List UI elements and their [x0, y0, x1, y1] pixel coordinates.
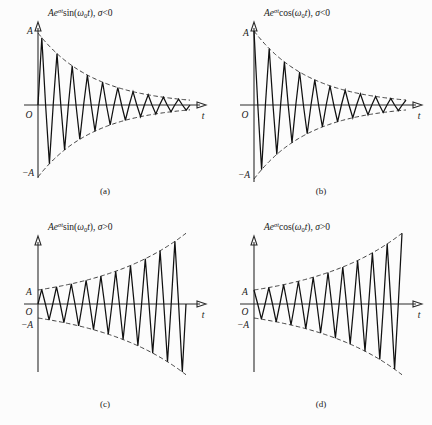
envelope-lower [38, 318, 186, 375]
panel-a: Aeσtsin(ω0t), σ<0 A O −A t [0, 0, 216, 212]
x-axis-label: t [418, 111, 421, 121]
x-axis-label: t [418, 310, 421, 320]
waveform [38, 38, 190, 164]
x-axis-label: t [202, 111, 205, 121]
panel-c-svg: Aeσtsin(ω0t), σ>0 A O −A t [0, 212, 216, 425]
panel-d-equation: Aeσtcos(ω0t), σ>0 [263, 221, 330, 233]
tick-label-b-top: A [242, 28, 249, 38]
envelope-lower [254, 318, 402, 375]
panel-d-axes [240, 236, 422, 372]
panel-c: Aeσtsin(ω0t), σ>0 A O −A t [0, 212, 216, 425]
tick-label-d-top: A [241, 287, 248, 297]
origin-label: O [242, 110, 249, 120]
tick-label-b-bottom: −A [238, 170, 250, 180]
origin-label: O [26, 307, 33, 317]
tick-label-c-top: A [25, 287, 32, 297]
caption-c: (c) [75, 399, 135, 409]
panel-d: Aeσtcos(ω0t), σ>0 A O −A t [216, 212, 432, 425]
origin-label: O [242, 307, 249, 317]
caption-a: (a) [75, 186, 135, 196]
tick-label-c-bottom: −A [21, 320, 33, 330]
x-axis-label: t [202, 310, 205, 320]
caption-d: (d) [291, 399, 351, 409]
tick-label-a-top: A [26, 26, 33, 36]
envelope-lower [38, 110, 190, 177]
panel-b-svg: Aeσtcos(ω0t), σ<0 A O −A t [216, 0, 432, 212]
panel-b: Aeσtcos(ω0t), σ<0 A O −A t [216, 0, 432, 212]
tick-label-a-bottom: −A [22, 168, 34, 178]
envelope-upper [254, 233, 402, 290]
panel-d-svg: Aeσtcos(ω0t), σ>0 A O −A t [216, 212, 432, 425]
envelope-upper [38, 33, 190, 100]
waveform [38, 241, 186, 372]
panel-c-equation: Aeσtsin(ω0t), σ>0 [47, 221, 113, 233]
panel-a-equation: Aeσtsin(ω0t), σ<0 [47, 7, 113, 19]
waveform [254, 31, 406, 170]
caption-b: (b) [291, 186, 351, 196]
panel-b-equation: Aeσtcos(ω0t), σ<0 [263, 7, 330, 19]
figure-container: Aeσtsin(ω0t), σ<0 A O −A t Aeσtcos(ω0t),… [0, 0, 432, 425]
panel-b-axes [240, 22, 422, 182]
envelope-upper [38, 233, 186, 290]
envelope-lower [254, 110, 406, 179]
panel-a-svg: Aeσtsin(ω0t), σ<0 A O −A t [0, 0, 216, 212]
waveform [254, 233, 402, 369]
tick-label-d-bottom: −A [237, 320, 249, 330]
origin-label: O [26, 110, 33, 120]
envelope-upper [254, 31, 406, 100]
